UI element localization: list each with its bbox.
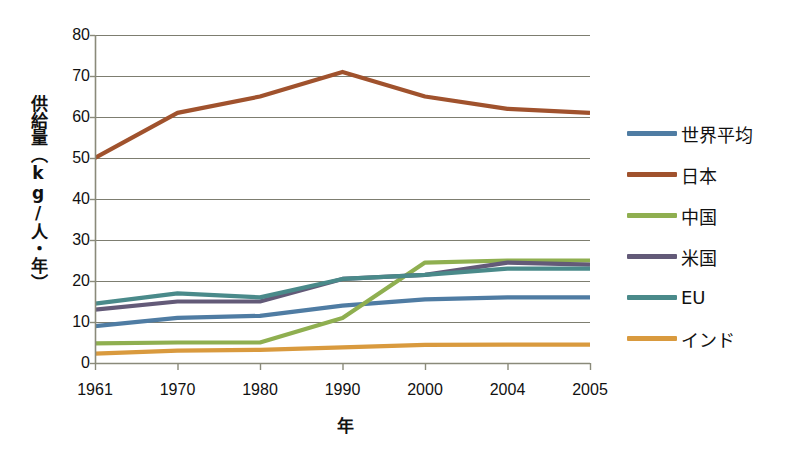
legend-label: 日本	[681, 162, 717, 188]
legend-label: 中国	[681, 203, 717, 229]
legend-color-swatch	[627, 336, 677, 341]
x-axis-title: 年	[0, 412, 690, 437]
x-axis-tick-label: 2004	[473, 381, 543, 399]
legend-color-swatch	[627, 213, 677, 218]
chart-legend: 世界平均日本中国米国EUインド	[627, 113, 795, 359]
legend-color-swatch	[627, 172, 677, 177]
x-axis-tick-label: 2005	[555, 381, 625, 399]
x-axis-tick-label: 1990	[308, 381, 378, 399]
legend-item[interactable]: 世界平均	[627, 113, 795, 154]
legend-label: インド	[681, 326, 735, 352]
legend-label: 米国	[681, 244, 717, 270]
x-axis-tick-label: 1961	[60, 381, 130, 399]
x-axis-tick-label: 1970	[143, 381, 213, 399]
legend-label: 世界平均	[681, 121, 753, 147]
legend-color-swatch	[627, 295, 677, 300]
legend-item[interactable]: 米国	[627, 236, 795, 277]
x-axis-tick-label: 1980	[225, 381, 295, 399]
legend-item[interactable]: 日本	[627, 154, 795, 195]
legend-color-swatch	[627, 254, 677, 259]
x-axis-tick-label: 2000	[390, 381, 460, 399]
legend-label: EU	[681, 287, 706, 308]
line-chart: 供給量（kg/人・年） 80706050403020100 年 19611970…	[0, 0, 798, 462]
legend-item[interactable]: EU	[627, 277, 795, 318]
legend-item[interactable]: 中国	[627, 195, 795, 236]
legend-item[interactable]: インド	[627, 318, 795, 359]
legend-color-swatch	[627, 131, 677, 136]
